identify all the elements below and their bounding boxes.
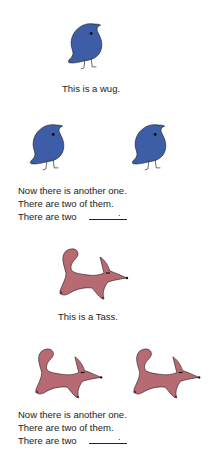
wug-image-left — [28, 123, 70, 171]
sentence-line: There are two of them. — [18, 197, 127, 210]
wug-image-right — [130, 123, 172, 171]
tass-caption: This is a Tass. — [58, 311, 118, 323]
wug-sentences: Now there is another one. There are two … — [18, 184, 127, 223]
sentence-line: There are two of them. — [18, 421, 127, 434]
answer-blank[interactable]: . — [89, 210, 127, 220]
tass-image-right — [128, 345, 206, 400]
sentence-line: Now there is another one. — [18, 184, 127, 197]
sentence-line: There are two. — [18, 210, 127, 223]
sentence-line: There are two. — [18, 434, 127, 447]
tass-image-left — [30, 345, 108, 400]
wug-caption: This is a wug. — [62, 83, 120, 95]
wug-image — [66, 22, 108, 70]
sentence-line: Now there is another one. — [18, 408, 127, 421]
tass-sentences: Now there is another one. There are two … — [18, 408, 127, 447]
tass-image — [54, 245, 134, 301]
answer-blank[interactable]: . — [89, 434, 127, 444]
